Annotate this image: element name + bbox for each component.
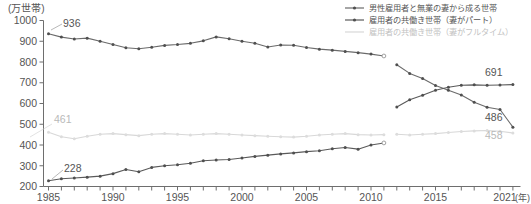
series-parttime-line-post-break [397, 85, 513, 107]
data-point-marker [331, 147, 334, 150]
series-male-markers [47, 32, 514, 128]
data-point-marker [473, 83, 476, 86]
data-point-marker [408, 134, 411, 137]
household-trend-line-chart: (万世帯) 1000 900 800 700 600 500 400 300 2… [0, 0, 531, 204]
data-point-marker [99, 175, 102, 178]
data-point-marker [73, 37, 76, 40]
x-tick-label-1985: 1985 [37, 191, 61, 203]
data-point-marker [318, 48, 321, 51]
annotation-691: 691 [485, 66, 503, 78]
y-tick-label-900: 900 [19, 35, 37, 47]
data-point-marker [86, 37, 89, 40]
y-tick-label-600: 600 [19, 97, 37, 109]
y-tick-label-200: 200 [19, 180, 37, 192]
data-point-marker [382, 141, 386, 145]
data-point-marker [215, 35, 218, 38]
data-point-marker [408, 72, 411, 75]
data-point-marker [47, 179, 50, 182]
x-tick-label-1990: 1990 [101, 191, 125, 203]
data-point-marker [73, 176, 76, 179]
data-point-marker [202, 159, 205, 162]
data-point-marker [447, 86, 450, 89]
x-tick-label-2005: 2005 [295, 191, 319, 203]
data-point-marker [241, 134, 244, 137]
data-point-marker [421, 77, 424, 80]
series-fulltime-markers [47, 129, 514, 140]
data-point-marker [318, 134, 321, 137]
data-point-marker [499, 84, 502, 87]
data-point-marker [228, 37, 231, 40]
data-point-marker [382, 133, 385, 136]
data-point-marker [112, 132, 115, 135]
data-point-marker [189, 134, 192, 137]
y-tick-label-700: 700 [19, 76, 37, 88]
data-point-marker [60, 177, 63, 180]
data-point-marker [266, 46, 269, 49]
data-point-marker [357, 133, 360, 136]
x-tick-label-2015: 2015 [424, 191, 448, 203]
data-point-marker [511, 131, 514, 134]
annotation-461: 461 [54, 113, 72, 125]
data-point-marker [370, 53, 373, 56]
data-point-marker [511, 126, 514, 129]
data-point-marker [253, 155, 256, 158]
data-point-marker [292, 151, 295, 154]
data-point-marker [434, 132, 437, 135]
x-tick-label-1995: 1995 [166, 191, 190, 203]
data-point-marker [253, 134, 256, 137]
data-point-marker [137, 134, 140, 137]
data-point-marker [460, 93, 463, 96]
data-point-marker [344, 132, 347, 135]
data-point-marker [86, 176, 89, 179]
data-point-marker [202, 133, 205, 136]
data-point-marker [357, 148, 360, 151]
data-point-marker [434, 84, 437, 87]
data-point-marker [99, 40, 102, 43]
data-point-marker [60, 36, 63, 39]
data-point-marker [176, 163, 179, 166]
data-point-marker [344, 146, 347, 149]
data-point-marker [305, 135, 308, 138]
data-point-marker [486, 84, 489, 87]
data-point-marker [511, 83, 514, 86]
data-point-marker [460, 84, 463, 87]
y-tick-label-1000: 1000 [14, 14, 38, 26]
data-point-marker [292, 44, 295, 47]
legend-item-male[interactable]: 男性雇用者と無業の妻から成る世帯 [345, 3, 497, 13]
legend-label-male: 男性雇用者と無業の妻から成る世帯 [369, 3, 497, 13]
data-point-marker [137, 170, 140, 173]
data-point-marker [73, 137, 76, 140]
data-point-marker [331, 133, 334, 136]
x-axis-unit-label: (年) [515, 192, 530, 203]
data-point-marker [357, 51, 360, 54]
data-point-marker [163, 44, 166, 47]
data-point-marker [176, 133, 179, 136]
data-point-marker [447, 89, 450, 92]
data-point-marker [408, 98, 411, 101]
legend-marker-icon [353, 6, 356, 9]
data-point-marker [395, 133, 398, 136]
data-point-marker [176, 43, 179, 46]
annotation-486: 486 [485, 111, 503, 123]
data-point-marker [47, 131, 50, 134]
data-point-marker [60, 135, 63, 138]
data-point-marker [266, 135, 269, 138]
x-axis-labels: 1985 1990 1995 2000 2005 2010 2015 2021 … [37, 191, 530, 203]
y-tick-label-800: 800 [19, 56, 37, 68]
chart-container: (万世帯) 1000 900 800 700 600 500 400 300 2… [0, 0, 531, 204]
legend-marker-icon [353, 18, 356, 21]
legend-item-parttime[interactable]: 雇用者の共働き世帯（妻がパート） [345, 15, 497, 25]
data-point-marker [163, 132, 166, 135]
legend-item-fulltime[interactable]: 雇用者の共働き世帯（妻がフルタイム） [345, 27, 513, 37]
x-tick-label-2000: 2000 [230, 191, 254, 203]
data-point-marker [228, 158, 231, 161]
data-point-marker [99, 133, 102, 136]
data-point-marker [47, 32, 50, 35]
data-point-marker [331, 49, 334, 52]
x-tick-label-2010: 2010 [359, 191, 383, 203]
data-point-marker [150, 46, 153, 49]
data-point-marker [305, 150, 308, 153]
data-point-marker [228, 133, 231, 136]
data-point-marker [124, 168, 127, 171]
data-point-marker [421, 94, 424, 97]
